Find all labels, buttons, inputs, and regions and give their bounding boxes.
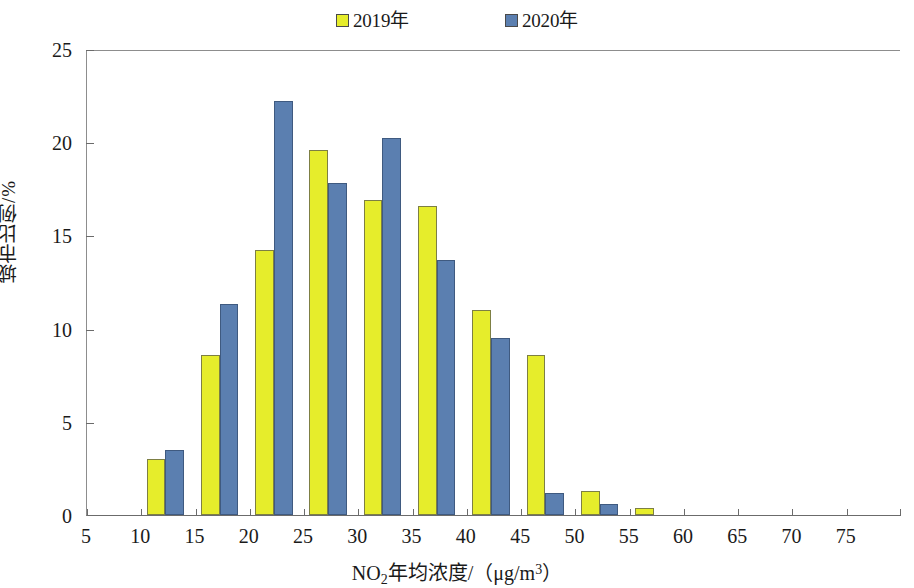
x-axis-tick [847,509,848,516]
x-axis-tick-label: 45 [510,526,530,546]
x-axis-tick [304,509,305,516]
x-axis-tick [467,509,468,516]
y-axis-tick-label: 25 [52,40,72,60]
x-axis-tick-label: 10 [130,526,150,546]
bar-2020年-45 [545,493,564,515]
bar-2019年-15 [201,355,220,515]
x-axis-tick [358,509,359,516]
legend-item-2019: 2019年 [336,11,409,30]
y-axis-tick [86,143,94,144]
bar-2019年-40 [472,310,491,515]
x-axis-tick [738,509,739,516]
x-axis-tick [575,509,576,516]
x-axis-tick [684,509,685,516]
x-axis-tick [141,509,142,516]
legend-swatch-2020 [505,14,518,27]
x-axis-tick-label: 5 [81,526,91,546]
bar-2020年-25 [328,183,347,515]
x-axis-tick-label: 40 [456,526,476,546]
y-axis-tick [86,423,94,424]
bar-2020年-10 [165,450,184,515]
y-axis-tick-label: 10 [52,320,72,340]
bar-2020年-20 [274,101,293,515]
legend-swatch-2019 [336,14,349,27]
bar-2019年-30 [364,200,383,515]
y-axis-tick [86,50,94,51]
x-axis-tick-label: 30 [347,526,367,546]
x-axis-tick-label: 20 [239,526,259,546]
legend-label-2020: 2020年 [522,11,578,30]
x-axis-title-part: ） [542,562,562,584]
x-axis-title-part: 年均浓度/（μg/m [388,562,535,584]
plot-area [86,50,900,516]
x-axis-tick-label: 75 [836,526,856,546]
x-axis-tick-label: 35 [402,526,422,546]
x-axis-tick [521,509,522,516]
chart-legend: 2019年 2020年 [0,6,914,34]
bar-2020年-15 [220,304,239,515]
x-axis-tick-label: 65 [727,526,747,546]
y-axis-tick-label: 5 [62,413,72,433]
bar-2019年-50 [581,491,600,515]
bar-2019年-45 [527,355,546,515]
bar-2019年-20 [255,250,274,515]
bar-2019年-35 [418,206,437,515]
y-axis-tick [86,330,94,331]
x-axis-tick-label: 25 [293,526,313,546]
bar-2019年-10 [147,459,166,515]
y-axis-tick [86,236,94,237]
y-axis-tick-label: 0 [62,506,72,526]
bar-2020年-35 [437,260,456,515]
x-axis-tick-label: 55 [619,526,639,546]
x-axis-tick [900,509,901,516]
bar-2020年-40 [491,338,510,515]
x-axis-tick-label: 60 [673,526,693,546]
bar-2019年-55 [635,508,654,515]
x-axis-tick [196,509,197,516]
y-axis-tick-label: 15 [52,226,72,246]
bars-layer [87,51,900,515]
bar-2020年-50 [600,504,619,515]
legend-item-2020: 2020年 [505,11,578,30]
bar-2019年-25 [309,150,328,515]
chart-figure: 2019年 2020年 城市比例/% 0510152025 5101520253… [0,0,914,588]
x-axis-tick-label: 50 [564,526,584,546]
x-axis-tick [792,509,793,516]
x-axis-tick [250,509,251,516]
y-axis-tick-label: 20 [52,133,72,153]
legend-label-2019: 2019年 [353,11,409,30]
x-axis-title: NO2年均浓度/（μg/m3） [0,558,914,588]
bar-2020年-30 [382,138,401,515]
x-axis-tick-label: 15 [185,526,205,546]
x-axis-tick-label: 70 [781,526,801,546]
x-axis-tick [87,509,88,516]
x-axis-title-part: 2 [381,572,388,587]
x-axis-title-part: NO [352,562,381,584]
x-axis-tick [630,509,631,516]
x-axis-tick [413,509,414,516]
y-axis-tick-labels: 0510152025 [0,0,72,588]
